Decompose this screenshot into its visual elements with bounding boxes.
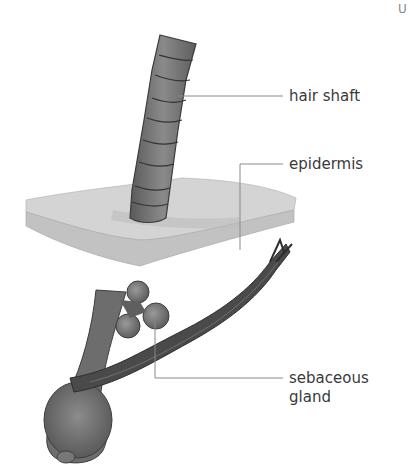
label-hair-shaft: hair shaft	[289, 87, 360, 105]
label-gland: gland	[289, 388, 331, 406]
label-sebaceous: sebaceous	[289, 369, 369, 387]
label-epidermis: epidermis	[289, 155, 363, 173]
corner-mark: U	[398, 2, 407, 16]
hair-follicle-diagram	[0, 0, 415, 466]
sebaceous-gland	[116, 281, 169, 338]
